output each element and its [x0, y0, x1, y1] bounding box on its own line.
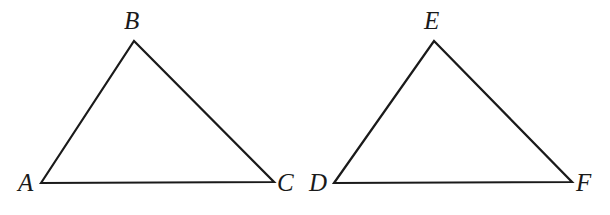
vertex-label-e: E — [424, 8, 439, 33]
triangles-canvas — [0, 0, 610, 215]
vertex-label-d: D — [309, 170, 327, 195]
geometry-figure: A B C D E F — [0, 0, 610, 215]
vertex-label-f: F — [576, 170, 591, 195]
vertex-label-a: A — [18, 170, 33, 195]
vertex-label-c: C — [277, 170, 294, 195]
vertex-label-b: B — [124, 8, 139, 33]
